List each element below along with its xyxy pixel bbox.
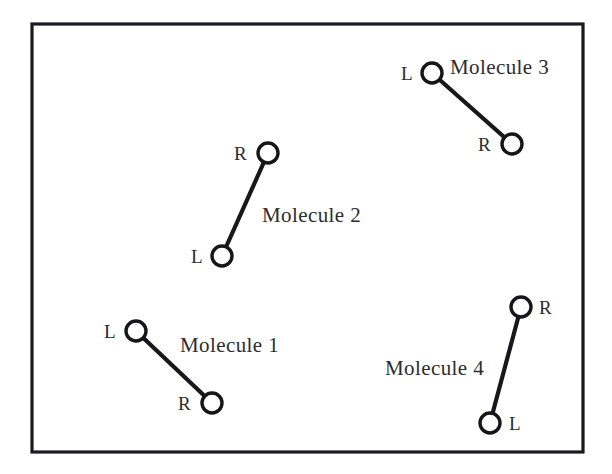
molecule-1-atom-l-letter: L (104, 321, 116, 342)
molecule-2-group: R L Molecule 2 (191, 143, 361, 267)
molecule-3-atom-r-letter: R (478, 134, 491, 155)
molecule-3-atom-l-letter: L (401, 63, 413, 84)
molecule-3-bond (432, 73, 512, 144)
molecule-2-label: Molecule 2 (262, 203, 361, 227)
molecule-1-group: L R Molecule 1 (104, 321, 279, 414)
molecule-4-bond (490, 307, 521, 423)
molecule-1-label: Molecule 1 (180, 333, 279, 357)
molecules-figure: L R Molecule 1 R L Molecule 2 L R Molecu… (0, 0, 612, 474)
molecule-2-atom-l-letter: L (191, 246, 203, 267)
molecule-4-atom-r-letter: R (539, 297, 552, 318)
molecule-3-atom-r (502, 134, 522, 154)
molecule-1-atom-r-letter: R (178, 393, 191, 414)
molecule-3-label: Molecule 3 (450, 55, 549, 79)
molecule-3-group: L R Molecule 3 (401, 55, 549, 155)
molecule-3-atom-l (422, 63, 442, 83)
molecule-2-atom-r-letter: R (234, 143, 247, 164)
figure-canvas: L R Molecule 1 R L Molecule 2 L R Molecu… (0, 0, 612, 474)
molecule-4-label: Molecule 4 (385, 356, 484, 380)
molecule-1-atom-l (126, 321, 146, 341)
molecule-4-atom-r (511, 297, 531, 317)
molecule-1-atom-r (202, 393, 222, 413)
molecule-2-atom-l (212, 246, 232, 266)
molecule-2-atom-r (258, 143, 278, 163)
molecule-4-group: R L Molecule 4 (385, 297, 552, 434)
molecule-4-atom-l (480, 413, 500, 433)
molecule-4-atom-l-letter: L (509, 413, 521, 434)
